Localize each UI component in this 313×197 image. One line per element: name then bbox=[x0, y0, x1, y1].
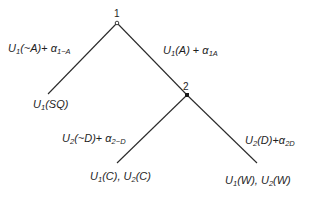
utility-symbol: U bbox=[245, 134, 253, 146]
edge-1-to-sq bbox=[48, 23, 117, 94]
edge-2-to-w bbox=[187, 95, 257, 163]
alpha-subscript: 1A bbox=[209, 49, 218, 58]
utility-symbol: U bbox=[163, 44, 171, 56]
alpha-subscript: 1~A bbox=[57, 47, 71, 56]
edge-label-not-d: U2(~D)+ α2~D bbox=[62, 132, 126, 148]
utility-symbol: U bbox=[8, 42, 16, 54]
edge-label-a: U1(A) + α1A bbox=[163, 44, 218, 60]
alpha-subscript: 2~D bbox=[112, 137, 126, 146]
terminal-sq: U1(SQ) bbox=[33, 98, 68, 114]
node-2-label: 2 bbox=[183, 82, 189, 92]
node-1-marker bbox=[115, 21, 119, 25]
outcome-arg: (C), bbox=[102, 170, 123, 182]
edge-label-d: U2(D)+α2D bbox=[245, 134, 295, 150]
action-arg: (~D) bbox=[74, 132, 96, 144]
node-2-marker bbox=[185, 93, 189, 97]
utility-symbol: U bbox=[62, 132, 70, 144]
terminal-w: U1(W), U2(W) bbox=[225, 174, 291, 190]
utility-symbol: U bbox=[33, 98, 41, 110]
utility-symbol: U bbox=[225, 174, 233, 186]
utility-symbol: U bbox=[90, 170, 98, 182]
action-arg: (~A) bbox=[20, 42, 41, 54]
alpha-subscript: 2D bbox=[285, 139, 295, 148]
action-arg: (D) bbox=[257, 134, 272, 146]
plus-sign: + bbox=[96, 132, 105, 144]
outcome-arg: (W), bbox=[237, 174, 261, 186]
outcome-arg: (SQ) bbox=[45, 98, 68, 110]
plus-sign: + bbox=[190, 44, 203, 56]
node-1-label: 1 bbox=[114, 9, 120, 19]
edge-2-to-c bbox=[117, 95, 187, 163]
outcome-arg: (W) bbox=[273, 174, 291, 186]
plus-sign: + bbox=[41, 42, 50, 54]
outcome-arg: (C) bbox=[136, 170, 151, 182]
utility-symbol: U bbox=[261, 174, 269, 186]
terminal-c: U1(C), U2(C) bbox=[90, 170, 151, 186]
action-arg: (A) bbox=[175, 44, 190, 56]
edge-label-not-a: U1(~A)+ α1~A bbox=[8, 42, 71, 58]
